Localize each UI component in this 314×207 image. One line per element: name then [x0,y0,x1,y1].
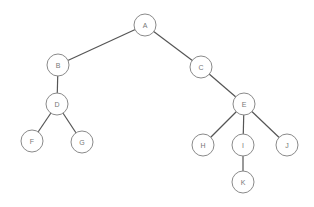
node-label: F [30,138,34,145]
node-i: I [232,134,254,156]
node-label: J [285,142,289,149]
node-e: E [233,93,255,115]
edge-a-b [58,25,145,65]
node-label: D [54,101,59,108]
node-f: F [21,130,43,152]
node-label: B [56,62,61,69]
node-j: J [276,134,298,156]
node-d: D [46,93,68,115]
node-label: C [198,64,203,71]
nodes-layer: ABCDEFGHIJK [21,14,298,193]
node-b: B [47,54,69,76]
node-h: H [192,134,214,156]
node-k: K [232,171,254,193]
node-label: E [242,101,247,108]
tree-diagram: ABCDEFGHIJK [0,0,314,207]
node-label: H [200,142,205,149]
node-label: K [241,179,246,186]
node-c: C [190,56,212,78]
node-label: G [79,139,84,146]
node-a: A [134,14,156,36]
node-label: I [242,142,244,149]
node-g: G [71,131,93,153]
node-label: A [143,22,148,29]
